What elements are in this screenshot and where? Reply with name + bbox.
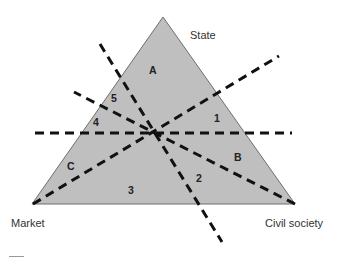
region-label-2: 2 [196,172,202,184]
triangle [32,17,295,204]
footnote-rule [9,256,24,257]
region-label-A: A [149,64,157,76]
vertex-label-market: Market [11,217,45,229]
region-label-1: 1 [214,112,220,124]
region-label-4: 4 [93,116,99,128]
region-label-3: 3 [128,184,134,196]
region-label-B: B [234,151,242,163]
vertex-label-state: State [190,29,216,41]
region-label-C: C [67,160,75,172]
region-label-5: 5 [111,92,117,104]
welfare-triangle-diagram: State Market Civil society A B C 1 2 3 4… [0,0,343,259]
vertex-label-civil-society: Civil society [265,217,324,229]
